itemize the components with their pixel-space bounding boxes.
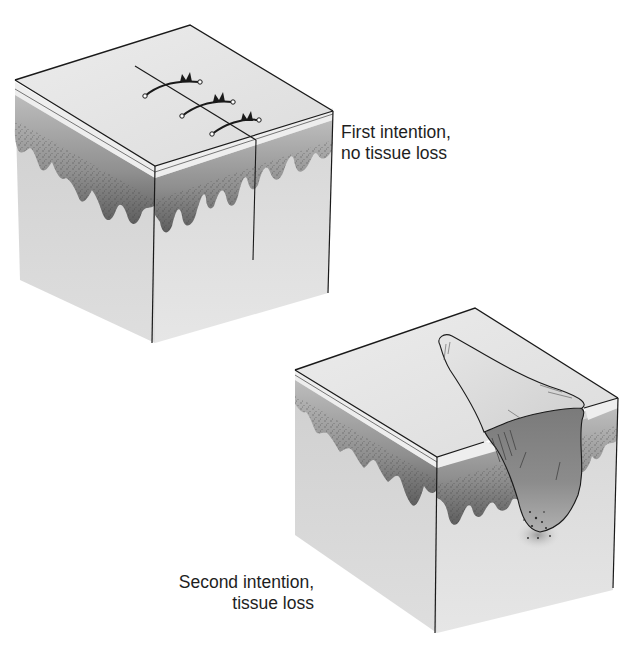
label-first-line-2: no tissue loss xyxy=(341,143,451,164)
first-intention-block xyxy=(15,25,333,343)
label-second-line-2: tissue loss xyxy=(178,593,314,614)
wound-healing-diagram xyxy=(0,0,641,648)
label-first-line-1: First intention, xyxy=(341,122,451,143)
label-first-intention: First intention, no tissue loss xyxy=(341,122,451,164)
label-second-intention: Second intention, tissue loss xyxy=(178,572,314,614)
label-second-line-1: Second intention, xyxy=(178,572,314,593)
second-intention-block xyxy=(295,308,618,633)
